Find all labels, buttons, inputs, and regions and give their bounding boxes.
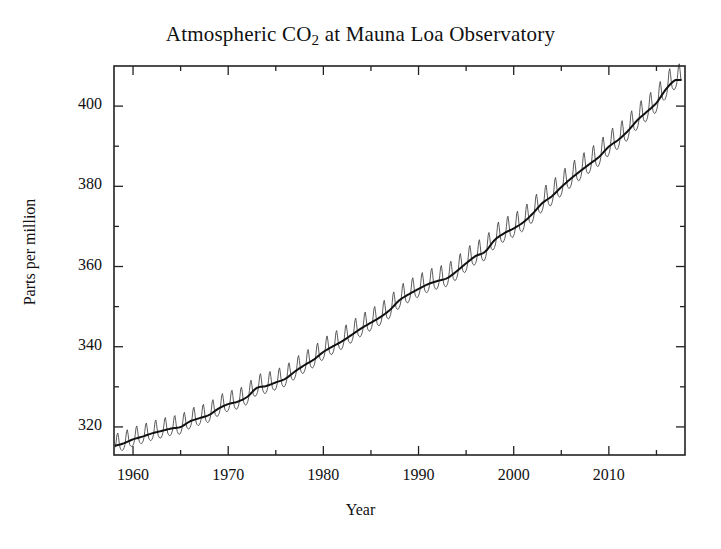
- y-tick-label: 320: [52, 416, 102, 434]
- plot-background: [114, 66, 685, 455]
- x-tick-label: 1960: [103, 466, 163, 484]
- y-tick-label: 340: [52, 336, 102, 354]
- x-tick-label: 1980: [293, 466, 353, 484]
- y-tick-label: 400: [52, 95, 102, 113]
- y-tick-label: 380: [52, 175, 102, 193]
- x-tick-label: 1990: [389, 466, 449, 484]
- co2-chart-figure: Atmospheric CO2 at Mauna Loa Observatory…: [0, 0, 721, 549]
- y-tick-label: 360: [52, 256, 102, 274]
- x-tick-label: 1970: [198, 466, 258, 484]
- x-tick-label: 2000: [484, 466, 544, 484]
- x-tick-label: 2010: [579, 466, 639, 484]
